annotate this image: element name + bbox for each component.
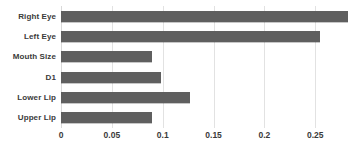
plot-area xyxy=(61,6,356,128)
bar-row xyxy=(61,6,356,26)
category-label-row: Right Eye xyxy=(0,6,56,26)
category-label-row: Left Eye xyxy=(0,26,56,46)
horizontal-bar-chart: Right EyeLeft EyeMouth SizeD1Lower LipUp… xyxy=(0,0,356,154)
category-label-row: Upper Lip xyxy=(0,108,56,128)
tick-label-0: 0 xyxy=(59,130,64,140)
bar-right-eye[interactable] xyxy=(61,11,348,22)
category-label-row: D1 xyxy=(0,67,56,87)
bar-row xyxy=(61,67,356,87)
category-label-d1: D1 xyxy=(46,73,56,82)
category-label-right-eye: Right Eye xyxy=(18,12,56,21)
bar-upper-lip[interactable] xyxy=(61,112,152,123)
bar-row xyxy=(61,47,356,67)
tick-label-0.05: 0.05 xyxy=(104,130,121,140)
bar-row xyxy=(61,108,356,128)
category-label-row: Mouth Size xyxy=(0,47,56,67)
category-label-left-eye: Left Eye xyxy=(24,32,56,41)
bar-row xyxy=(61,26,356,46)
tick-label-0.25: 0.25 xyxy=(307,130,324,140)
category-axis-labels: Right EyeLeft EyeMouth SizeD1Lower LipUp… xyxy=(0,6,56,128)
category-label-row: Lower Lip xyxy=(0,87,56,107)
category-label-upper-lip: Upper Lip xyxy=(18,113,56,122)
bar-series xyxy=(61,6,356,128)
tick-label-0.1: 0.1 xyxy=(157,130,169,140)
bar-left-eye[interactable] xyxy=(61,31,320,42)
bar-d1[interactable] xyxy=(61,72,161,83)
category-label-lower-lip: Lower Lip xyxy=(17,93,56,102)
value-axis-tick-labels: 00.050.10.150.20.25 xyxy=(61,130,356,146)
bar-lower-lip[interactable] xyxy=(61,92,190,103)
bar-mouth-size[interactable] xyxy=(61,51,152,62)
tick-label-0.15: 0.15 xyxy=(205,130,222,140)
tick-label-0.2: 0.2 xyxy=(259,130,271,140)
bar-row xyxy=(61,87,356,107)
category-label-mouth-size: Mouth Size xyxy=(13,52,56,61)
